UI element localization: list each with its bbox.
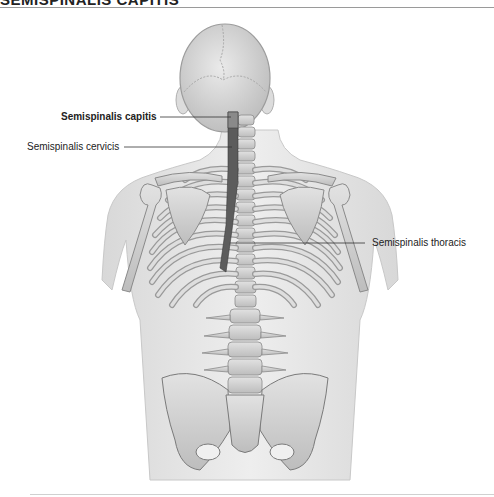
label-semispinalis-capitis: Semispinalis capitis: [61, 111, 157, 122]
footer-divider: [30, 494, 494, 495]
label-semispinalis-cervicis: Semispinalis cervicis: [27, 141, 119, 152]
label-semispinalis-thoracis: Semispinalis thoracis: [372, 237, 466, 248]
skull: [180, 24, 270, 132]
anatomy-illustration: [0, 0, 494, 497]
